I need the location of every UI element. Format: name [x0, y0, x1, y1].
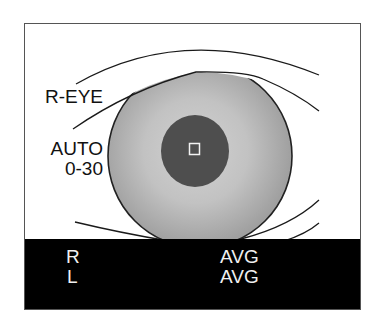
pupil — [161, 115, 229, 187]
status-side-right: R — [66, 247, 80, 267]
status-side-left: L — [67, 267, 78, 287]
status-value-right: AVG — [220, 247, 259, 267]
eye-side-label: R-EYE — [45, 87, 103, 107]
range-label: 0-30 — [65, 159, 103, 179]
mode-label: AUTO — [51, 139, 103, 159]
status-bar: R L AVG AVG — [25, 239, 360, 309]
eye-camera-screen: R-EYE AUTO 0-30 R L AVG AVG — [24, 23, 361, 310]
status-value-left: AVG — [220, 267, 259, 287]
